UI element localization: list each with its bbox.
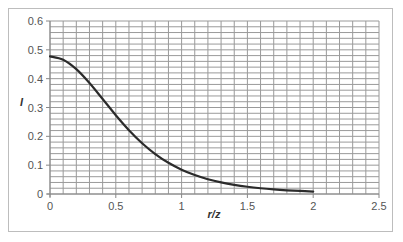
x-tick-label: 1.5 xyxy=(240,200,255,212)
grid-lines xyxy=(50,21,379,194)
x-tick-label: 2.5 xyxy=(371,200,386,212)
x-tick-label: 0.5 xyxy=(108,200,123,212)
y-tick-label: 0.3 xyxy=(28,102,43,114)
y-axis-title: I xyxy=(20,96,24,108)
x-tick-label: 2 xyxy=(310,200,316,212)
y-tick-label: 0.1 xyxy=(28,159,43,171)
y-tick-labels: 00.10.20.30.40.50.6 xyxy=(28,15,43,200)
y-tick-label: 0.5 xyxy=(28,44,43,56)
axes xyxy=(46,21,379,198)
x-tick-label: 0 xyxy=(47,200,53,212)
x-axis-title: r/z xyxy=(208,208,221,220)
y-tick-label: 0.6 xyxy=(28,15,43,27)
y-tick-label: 0.4 xyxy=(28,73,43,85)
y-tick-label: 0.2 xyxy=(28,130,43,142)
y-tick-label: 0 xyxy=(37,188,43,200)
x-tick-label: 1 xyxy=(179,200,185,212)
chart-plot: 00.10.20.30.40.50.6 00.511.522.5 I r/z xyxy=(0,0,403,242)
